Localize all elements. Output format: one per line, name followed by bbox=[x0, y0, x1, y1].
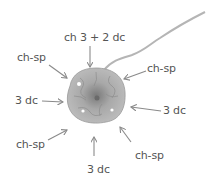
crochet-diagram: ch 3 + 2 dc ch-sp ch-sp 3 dc 3 dc ch-sp … bbox=[0, 0, 219, 188]
label-bottom: 3 dc bbox=[87, 163, 110, 176]
crochet-motif bbox=[67, 68, 125, 123]
label-right: 3 dc bbox=[163, 104, 186, 117]
label-bottom-right: ch-sp bbox=[135, 149, 164, 162]
label-bottom-left: ch-sp bbox=[16, 138, 45, 151]
label-top-left: ch-sp bbox=[17, 51, 46, 64]
label-top-right: ch-sp bbox=[147, 62, 176, 75]
label-top: ch 3 + 2 dc bbox=[64, 31, 125, 44]
label-left: 3 dc bbox=[15, 94, 38, 107]
